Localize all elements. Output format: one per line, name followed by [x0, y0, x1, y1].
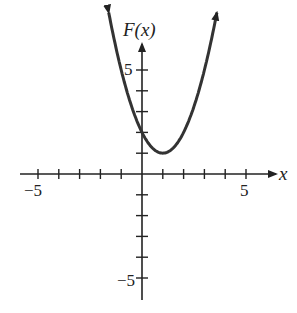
x-tick-label-5: 5	[240, 181, 249, 200]
x-tick-label-neg5: −5	[24, 181, 42, 200]
y-tick-label-neg5: −5	[117, 271, 135, 290]
y-axis-label: F(x)	[122, 19, 156, 41]
y-tick-label-5: 5	[124, 60, 133, 79]
function-graph: F(x) x −5 5 5 −5	[0, 0, 297, 313]
x-axis-label: x	[278, 163, 288, 184]
